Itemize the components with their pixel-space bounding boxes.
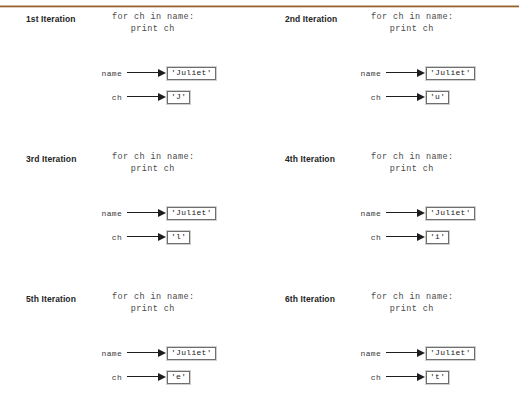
variable-row-name: name 'Juliet' xyxy=(345,66,475,80)
variable-label-ch: ch xyxy=(345,373,381,382)
iteration-panel: 5th Iteration for ch in name:print ch na… xyxy=(0,290,259,419)
value-box-ch: 'i' xyxy=(426,231,449,244)
iteration-panel: 1st Iteration for ch in name:print ch na… xyxy=(0,10,259,150)
variable-row-ch: ch 'J' xyxy=(86,90,190,104)
value-box-ch: 'l' xyxy=(167,231,190,244)
variable-row-name: name 'Juliet' xyxy=(86,346,216,360)
iteration-panel: 6th Iteration for ch in name:print ch na… xyxy=(259,290,519,419)
variable-label-name: name xyxy=(345,209,381,218)
variable-label-name: name xyxy=(86,349,122,358)
top-divider-rule xyxy=(0,5,519,8)
iteration-panel: 3rd Iteration for ch in name:print ch na… xyxy=(0,150,259,290)
value-box-name: 'Juliet' xyxy=(167,207,216,220)
code-line-for: for ch in name: xyxy=(112,292,195,302)
variable-label-ch: ch xyxy=(86,373,122,382)
value-box-ch: 'e' xyxy=(167,371,190,384)
reference-arrow-icon xyxy=(386,348,426,358)
variable-row-ch: ch 'e' xyxy=(86,370,190,384)
variable-label-name: name xyxy=(345,69,381,78)
variable-label-ch: ch xyxy=(86,233,122,242)
variable-row-name: name 'Juliet' xyxy=(345,206,475,220)
reference-arrow-icon xyxy=(127,348,167,358)
variable-label-name: name xyxy=(345,349,381,358)
code-snippet: for ch in name:print ch xyxy=(371,12,454,35)
reference-arrow-icon xyxy=(127,68,167,78)
code-snippet: for ch in name:print ch xyxy=(371,152,454,175)
reference-arrow-icon xyxy=(127,92,167,102)
code-snippet: for ch in name:print ch xyxy=(112,152,195,175)
iteration-title: 2nd Iteration xyxy=(285,14,337,24)
variable-label-ch: ch xyxy=(345,233,381,242)
iteration-title: 5th Iteration xyxy=(26,294,76,304)
value-box-name: 'Juliet' xyxy=(426,67,475,80)
reference-arrow-icon xyxy=(127,372,167,382)
value-box-name: 'Juliet' xyxy=(426,347,475,360)
variable-label-name: name xyxy=(86,209,122,218)
value-box-name: 'Juliet' xyxy=(167,67,216,80)
iteration-panel: 2nd Iteration for ch in name:print ch na… xyxy=(259,10,519,150)
variable-row-ch: ch 'l' xyxy=(86,230,190,244)
code-line-print: print ch xyxy=(112,24,195,36)
variable-row-ch: ch 't' xyxy=(345,370,449,384)
reference-arrow-icon xyxy=(386,68,426,78)
iteration-title: 1st Iteration xyxy=(26,14,75,24)
value-box-name: 'Juliet' xyxy=(167,347,216,360)
reference-arrow-icon xyxy=(386,208,426,218)
iteration-title: 3rd Iteration xyxy=(26,154,76,164)
value-box-ch: 'u' xyxy=(426,91,449,104)
code-line-print: print ch xyxy=(371,304,454,316)
code-line-for: for ch in name: xyxy=(371,292,454,302)
value-box-ch: 'J' xyxy=(167,91,190,104)
variable-label-ch: ch xyxy=(86,93,122,102)
code-line-for: for ch in name: xyxy=(371,152,454,162)
code-line-print: print ch xyxy=(112,304,195,316)
reference-arrow-icon xyxy=(127,232,167,242)
code-snippet: for ch in name:print ch xyxy=(112,292,195,315)
iteration-title: 4th Iteration xyxy=(285,154,335,164)
code-line-print: print ch xyxy=(112,164,195,176)
code-snippet: for ch in name:print ch xyxy=(371,292,454,315)
reference-arrow-icon xyxy=(386,232,426,242)
value-box-ch: 't' xyxy=(426,371,449,384)
reference-arrow-icon xyxy=(386,92,426,102)
reference-arrow-icon xyxy=(127,208,167,218)
code-line-print: print ch xyxy=(371,24,454,36)
code-line-for: for ch in name: xyxy=(112,152,195,162)
variable-row-ch: ch 'u' xyxy=(345,90,449,104)
iteration-title: 6th Iteration xyxy=(285,294,335,304)
code-line-for: for ch in name: xyxy=(371,12,454,22)
code-line-for: for ch in name: xyxy=(112,12,195,22)
variable-row-ch: ch 'i' xyxy=(345,230,449,244)
code-snippet: for ch in name:print ch xyxy=(112,12,195,35)
value-box-name: 'Juliet' xyxy=(426,207,475,220)
code-line-print: print ch xyxy=(371,164,454,176)
variable-row-name: name 'Juliet' xyxy=(86,66,216,80)
variable-row-name: name 'Juliet' xyxy=(345,346,475,360)
variable-label-ch: ch xyxy=(345,93,381,102)
iteration-panel: 4th Iteration for ch in name:print ch na… xyxy=(259,150,519,290)
variable-row-name: name 'Juliet' xyxy=(86,206,216,220)
iteration-panel-grid: 1st Iteration for ch in name:print ch na… xyxy=(0,10,519,419)
reference-arrow-icon xyxy=(386,372,426,382)
variable-label-name: name xyxy=(86,69,122,78)
